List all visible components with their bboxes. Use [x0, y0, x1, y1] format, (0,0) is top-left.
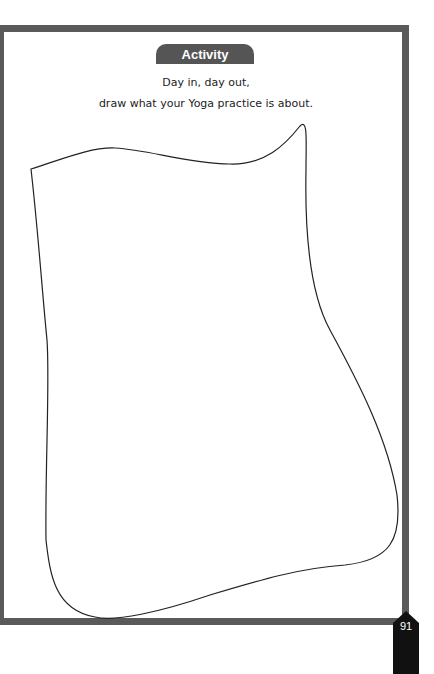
drawing-area-outline[interactable] [0, 0, 434, 674]
page-number: 91 [393, 620, 419, 632]
